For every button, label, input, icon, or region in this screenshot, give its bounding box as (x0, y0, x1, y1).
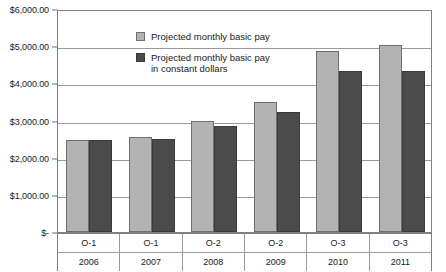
y-axis: $6,000.00$5,000.00$4,000.00$3,000.00$2,0… (0, 0, 57, 243)
x-axis-year-label: 2008 (183, 253, 244, 271)
y-axis-tick-label: $5,000.00 (10, 42, 49, 52)
x-axis-grade-label: O-1 (120, 234, 181, 253)
x-axis-year-label: 2010 (307, 253, 368, 271)
bar (214, 126, 237, 232)
x-axis-category-table: O-12006O-12007O-22008O-22009O-32010O-320… (57, 233, 432, 271)
x-axis-grade-label: O-1 (58, 234, 119, 253)
bar (129, 137, 152, 232)
x-axis-grade-label: O-3 (307, 234, 368, 253)
x-axis-grade-label: O-3 (370, 234, 431, 253)
x-axis-year-label: 2009 (245, 253, 306, 271)
legend-label: Projected monthly basic pay (151, 31, 270, 43)
bar-group (371, 11, 434, 232)
legend-item: Projected monthly basic pay in constant … (136, 52, 366, 75)
y-axis-tick-label: $4,000.00 (10, 79, 49, 89)
x-axis-year-label: 2007 (120, 253, 181, 271)
x-axis-year-label: 2011 (370, 253, 431, 271)
bar (339, 71, 362, 232)
x-axis-category-cell: O-22008 (183, 234, 245, 271)
plot-area: Projected monthly basic payProjected mon… (57, 10, 432, 233)
bar (277, 112, 300, 232)
bar (254, 102, 277, 232)
x-axis-category-cell: O-12006 (58, 234, 120, 271)
x-axis-category-cell: O-22009 (245, 234, 307, 271)
bar (89, 140, 112, 232)
bar-chart: $6,000.00$5,000.00$4,000.00$3,000.00$2,0… (0, 0, 446, 272)
x-axis-grade-label: O-2 (183, 234, 244, 253)
y-axis-tick-label: $6,000.00 (10, 5, 49, 15)
legend-label: Projected monthly basic pay in constant … (151, 52, 270, 75)
y-axis-tick-label: $1,000.00 (10, 191, 49, 201)
bar (152, 139, 175, 232)
legend-swatch-icon (136, 32, 145, 41)
y-axis-tick-label: $2,000.00 (10, 154, 49, 164)
bar (66, 140, 89, 232)
x-axis-category-cell: O-32011 (370, 234, 431, 271)
bar (379, 45, 402, 232)
y-axis-tick-label: $- (41, 228, 49, 238)
bar (191, 121, 214, 233)
y-axis-tick-label: $3,000.00 (10, 117, 49, 127)
x-axis-category-cell: O-12007 (120, 234, 182, 271)
legend-swatch-icon (136, 53, 145, 62)
x-axis-grade-label: O-2 (245, 234, 306, 253)
chart-legend: Projected monthly basic payProjected mon… (136, 31, 366, 84)
bar (402, 71, 425, 232)
legend-item: Projected monthly basic pay (136, 31, 366, 43)
bar-group (58, 11, 121, 232)
x-axis-year-label: 2006 (58, 253, 119, 271)
x-axis-category-cell: O-32010 (307, 234, 369, 271)
